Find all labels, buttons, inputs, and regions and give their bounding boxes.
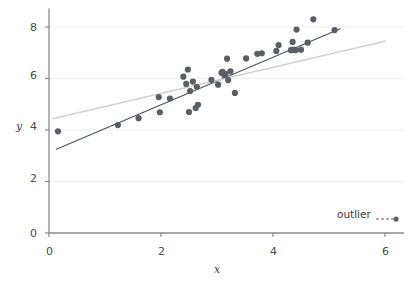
data-point (332, 27, 338, 33)
legend-label-outlier: outlier (337, 208, 371, 220)
legend: outlier (337, 208, 401, 220)
y-tick-label-8: 8 (30, 21, 37, 34)
fit-line-light (52, 41, 385, 119)
data-point (293, 26, 299, 32)
data-point (194, 84, 200, 90)
data-point (243, 55, 249, 61)
data-point (298, 47, 304, 53)
x-tick-label-0: 0 (46, 245, 53, 258)
data-point (187, 88, 193, 94)
data-point (167, 95, 173, 101)
data-point (215, 82, 221, 88)
y-tick-label-0: 0 (30, 227, 37, 240)
x-tick-label-4: 4 (270, 245, 277, 258)
x-tick-label-2: 2 (158, 245, 165, 258)
x-tick-label-6: 6 (382, 245, 389, 258)
data-point (276, 42, 282, 48)
data-point (190, 78, 196, 84)
x-axis-title: x (214, 263, 220, 276)
data-point (273, 48, 279, 54)
data-point (156, 94, 162, 100)
data-point (115, 122, 121, 128)
scatter-plot-figure: 8 6 4 2 0 0 2 4 6 y x outlier (0, 0, 415, 284)
legend-key-outlier (375, 209, 401, 219)
data-point (232, 90, 238, 96)
data-point (185, 66, 191, 72)
data-point (157, 109, 163, 115)
plot-canvas (0, 0, 415, 284)
data-point (305, 40, 311, 46)
y-tick-label-6: 6 (30, 69, 37, 82)
data-point (180, 74, 186, 80)
data-point (208, 77, 214, 83)
y-axis-title: y (16, 120, 22, 133)
data-point-markers (55, 16, 338, 134)
data-point (227, 68, 233, 74)
data-point (225, 77, 231, 83)
legend-key-icon (375, 214, 401, 224)
data-point (259, 50, 265, 56)
axis-lines (49, 9, 404, 233)
data-point (195, 102, 201, 108)
data-point (186, 109, 192, 115)
data-point (310, 16, 316, 22)
data-point (224, 56, 230, 62)
y-tick-label-2: 2 (30, 172, 37, 185)
data-point (290, 39, 296, 45)
data-point (292, 47, 298, 53)
y-tick-label-4: 4 (30, 120, 37, 133)
data-point (55, 128, 61, 134)
data-point (183, 81, 189, 87)
gridlines (49, 27, 404, 182)
data-point (136, 115, 142, 121)
fit-lines (52, 29, 385, 150)
